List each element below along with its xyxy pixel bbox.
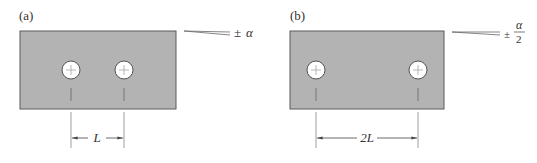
hole-b-right xyxy=(409,61,427,79)
angle-prefix-b: ± xyxy=(504,28,510,40)
angle-symbol-a: α xyxy=(246,25,254,40)
plate-a xyxy=(20,31,176,109)
dimension-label-b: 2L xyxy=(360,130,374,145)
angle-indicator-a xyxy=(184,31,230,35)
hole-a-right xyxy=(115,61,133,79)
hole-b-left xyxy=(307,61,325,79)
panel-b-label: (b) xyxy=(290,8,305,23)
panel-a: (a) L ± α xyxy=(19,8,254,148)
diagram-canvas: (a) L ± α (b) xyxy=(0,0,537,163)
dimension-label-a: L xyxy=(92,130,100,145)
panel-a-label: (a) xyxy=(19,8,33,23)
panel-b: (b) 2L ± α 2 xyxy=(290,8,525,148)
angle-prefix-a: ± xyxy=(234,25,241,40)
hole-a-left xyxy=(62,61,80,79)
angle-indicator-b xyxy=(452,32,500,35)
angle-symbol-b: α xyxy=(516,18,523,32)
angle-denominator-b: 2 xyxy=(516,33,522,45)
